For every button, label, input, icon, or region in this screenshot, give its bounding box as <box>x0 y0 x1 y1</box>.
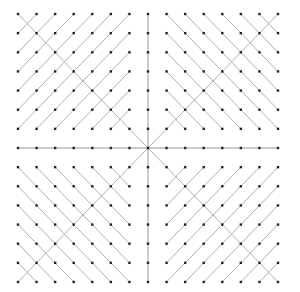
grid-dot <box>184 147 186 149</box>
grid-dot <box>35 51 37 53</box>
grid-dot <box>91 128 93 130</box>
grid-dot <box>221 262 223 264</box>
grid-dot <box>258 223 260 225</box>
grid-dot <box>147 89 149 91</box>
grid-dot <box>165 262 167 264</box>
grid-dot <box>91 70 93 72</box>
grid-dot <box>221 243 223 245</box>
grid-dot <box>258 185 260 187</box>
grid-dot <box>203 89 205 91</box>
grid-dot <box>54 243 56 245</box>
grid-dot <box>203 204 205 206</box>
grid-dot <box>258 281 260 283</box>
grid-dot <box>277 166 279 168</box>
grid-dot <box>110 243 112 245</box>
grid-dot <box>221 223 223 225</box>
grid-dot <box>128 128 130 130</box>
grid-dot <box>184 243 186 245</box>
grid-dot <box>203 223 205 225</box>
grid-dot <box>277 32 279 34</box>
grid-dot <box>147 204 149 206</box>
grid-dot <box>35 185 37 187</box>
grid-dot <box>91 243 93 245</box>
grid-dot <box>91 13 93 15</box>
grid-dot <box>203 147 205 149</box>
grid-dot <box>258 32 260 34</box>
grid-dot <box>203 243 205 245</box>
grid-dot <box>73 166 75 168</box>
grid-dot <box>110 185 112 187</box>
grid-dot <box>110 204 112 206</box>
grid-dot <box>17 147 19 149</box>
grid-dot <box>110 51 112 53</box>
grid-dot <box>184 89 186 91</box>
grid-dot <box>203 70 205 72</box>
grid-dot <box>91 109 93 111</box>
grid-dot <box>54 262 56 264</box>
grid-dot <box>73 109 75 111</box>
grid-dot <box>73 243 75 245</box>
grid-dot <box>203 166 205 168</box>
grid-dot <box>240 89 242 91</box>
grid-dot <box>35 243 37 245</box>
grid-dot <box>221 281 223 283</box>
grid-dot <box>165 166 167 168</box>
grid-dot <box>91 166 93 168</box>
grid-dot <box>240 13 242 15</box>
grid-dot <box>17 109 19 111</box>
grid-dot <box>35 147 37 149</box>
grid-dot <box>91 51 93 53</box>
grid-dot <box>110 109 112 111</box>
grid-dot <box>73 70 75 72</box>
grid-dot <box>73 223 75 225</box>
grid-dot <box>73 128 75 130</box>
grid-dot <box>221 128 223 130</box>
grid-dot <box>110 70 112 72</box>
grid-dot <box>35 32 37 34</box>
grid-dot <box>221 109 223 111</box>
grid-dot <box>110 223 112 225</box>
grid-dot <box>147 185 149 187</box>
grid-dot <box>221 70 223 72</box>
grid-dot <box>240 70 242 72</box>
grid-dot <box>277 109 279 111</box>
grid-dot <box>277 147 279 149</box>
grid-dot <box>54 166 56 168</box>
grid-dot <box>91 89 93 91</box>
grid-dot <box>203 109 205 111</box>
grid-dot <box>258 70 260 72</box>
grid-dot <box>203 262 205 264</box>
grid-dot <box>73 32 75 34</box>
grid-dot <box>147 147 149 149</box>
grid-dot <box>128 262 130 264</box>
grid-dot <box>17 262 19 264</box>
grid-dot <box>240 204 242 206</box>
grid-dot <box>221 185 223 187</box>
grid-dot <box>91 147 93 149</box>
grid-dot <box>203 32 205 34</box>
grid-dot <box>17 89 19 91</box>
grid-dot <box>73 89 75 91</box>
grid-dot <box>54 147 56 149</box>
grid-dot <box>165 89 167 91</box>
grid-dot <box>91 204 93 206</box>
dot-layer <box>17 13 279 283</box>
grid-dot <box>54 128 56 130</box>
grid-dot <box>128 147 130 149</box>
grid-dot <box>221 147 223 149</box>
grid-dot <box>35 166 37 168</box>
grid-dot <box>221 13 223 15</box>
dot-grid-diagram <box>0 0 300 292</box>
grid-dot <box>91 32 93 34</box>
grid-dot <box>17 185 19 187</box>
grid-dot <box>165 223 167 225</box>
grid-dot <box>128 51 130 53</box>
grid-dot <box>17 13 19 15</box>
grid-dot <box>128 70 130 72</box>
grid-dot <box>128 109 130 111</box>
grid-dot <box>184 204 186 206</box>
grid-dot <box>221 32 223 34</box>
grid-dot <box>240 32 242 34</box>
grid-dot <box>240 223 242 225</box>
grid-dot <box>17 204 19 206</box>
